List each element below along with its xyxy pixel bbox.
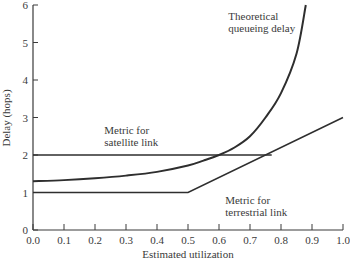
y-tick-label: 2 [23,149,29,161]
x-tick-label: 0.6 [212,234,226,246]
y-tick-label: 3 [23,112,29,124]
x-tick-label: 0.4 [150,234,164,246]
x-tick-label: 0.5 [181,234,195,246]
y-axis: 0123456 [23,0,39,236]
x-tick-label: 0.7 [243,234,257,246]
x-tick-label: 0.9 [305,234,319,246]
y-tick-label: 1 [23,187,29,199]
x-tick-label: 1.0 [336,234,350,246]
x-tick-label: 0.8 [274,234,288,246]
delay-vs-utilization-chart: 0123456 0.00.10.20.30.40.50.60.70.80.91.… [0,0,350,265]
y-tick-label: 5 [23,37,29,49]
y-tick-label: 4 [23,74,29,86]
series-lines [33,5,343,193]
y-tick-label: 6 [23,0,29,11]
annotation-label: Theoreticalqueueing delay [228,10,295,34]
annotation-label: Metric forsatellite link [104,124,159,148]
annotation-label: Metric forterrestrial link [225,194,288,218]
y-axis-title: Delay (hops) [0,89,13,146]
x-tick-label: 0.1 [57,234,71,246]
x-axis: 0.00.10.20.30.40.50.60.70.80.91.0 [26,224,350,246]
x-axis-title: Estimated utilization [142,248,234,260]
x-tick-label: 0.3 [119,234,133,246]
x-tick-label: 0.0 [26,234,40,246]
x-tick-label: 0.2 [88,234,102,246]
